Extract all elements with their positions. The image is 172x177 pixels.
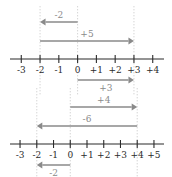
vector-label: +5 bbox=[80, 29, 94, 39]
number-line-figure: -3-2-10+1+2+3+4-2+5+3 -3-2-10+1+2+3+4+5+… bbox=[0, 0, 172, 177]
axis-tick-label: 0 bbox=[67, 150, 73, 160]
vector-arrow: +5 bbox=[40, 29, 134, 44]
axis-tick-label: +1 bbox=[90, 65, 103, 75]
vector-arrowhead bbox=[37, 123, 43, 130]
vector-label: -2 bbox=[54, 10, 63, 20]
number-line-svg-top: -3-2-10+1+2+3+4-2+5+3 bbox=[0, 0, 172, 95]
axis-tick-label: -1 bbox=[54, 65, 63, 75]
axis-tick-label: 0 bbox=[75, 65, 81, 75]
vector-label: -2 bbox=[49, 168, 58, 177]
axis-tick-label: +3 bbox=[127, 65, 141, 75]
vector-arrowhead bbox=[132, 104, 138, 111]
vector-arrow: -2 bbox=[37, 162, 70, 177]
axis-tick-label: +2 bbox=[109, 65, 122, 75]
axis-tick-label: +4 bbox=[131, 150, 145, 160]
vector-arrowhead bbox=[37, 162, 43, 169]
axis-tick-label: +1 bbox=[80, 150, 93, 160]
axis-tick-label: +3 bbox=[114, 150, 128, 160]
axis-tick-label: -1 bbox=[49, 150, 58, 160]
vector-label: +4 bbox=[97, 95, 111, 105]
vector-arrow: -2 bbox=[40, 10, 78, 25]
axis-tick-label: +4 bbox=[146, 65, 160, 75]
vector-arrow: -6 bbox=[37, 114, 137, 129]
axis-tick-label: -2 bbox=[36, 65, 45, 75]
vector-arrowhead bbox=[128, 38, 134, 45]
vector-arrow: +4 bbox=[70, 95, 137, 110]
vector-label: -6 bbox=[83, 114, 92, 124]
number-line-diagram-bottom: -3-2-10+1+2+3+4+5+4-6-2 bbox=[0, 82, 172, 177]
axis-tick-label: +5 bbox=[147, 150, 161, 160]
number-line-svg-bottom: -3-2-10+1+2+3+4+5+4-6-2 bbox=[0, 82, 172, 177]
axis-tick-label: -3 bbox=[17, 65, 26, 75]
axis-tick-label: -3 bbox=[16, 150, 25, 160]
axis-tick-label: +2 bbox=[97, 150, 110, 160]
number-line-diagram-top: -3-2-10+1+2+3+4-2+5+3 bbox=[0, 0, 172, 95]
axis-tick-label: -2 bbox=[32, 150, 41, 160]
vector-arrowhead bbox=[40, 19, 46, 26]
